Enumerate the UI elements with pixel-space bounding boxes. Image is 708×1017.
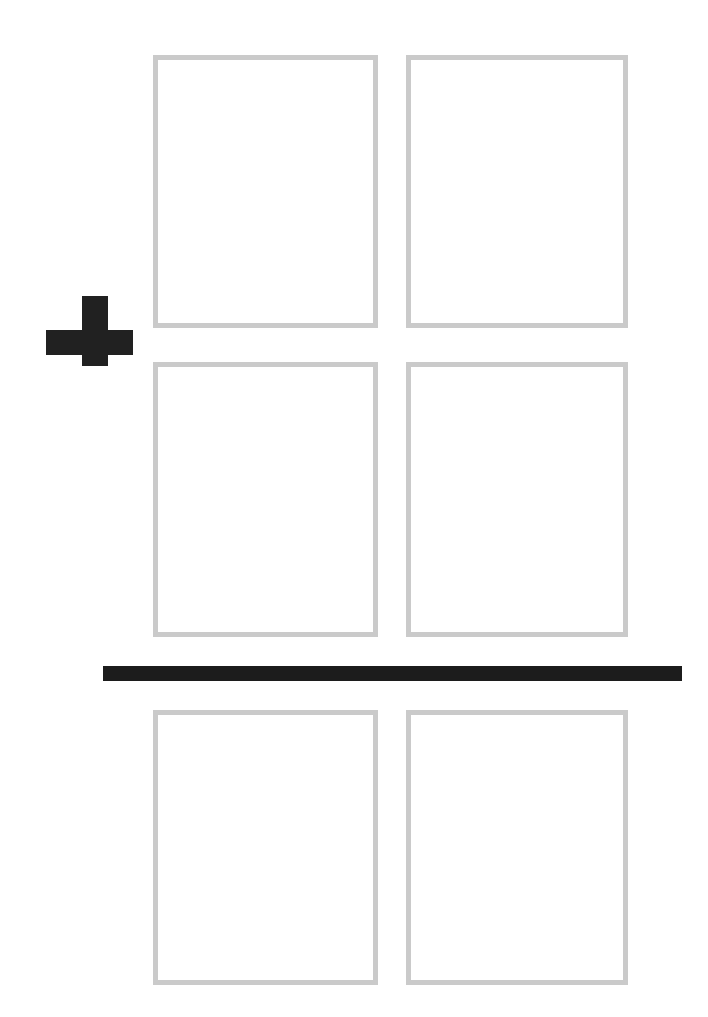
addition-worksheet	[0, 0, 708, 1017]
second-addend-tens[interactable]	[153, 362, 378, 637]
first-addend-ones[interactable]	[406, 55, 628, 328]
sum-tens[interactable]	[153, 710, 378, 985]
first-addend-tens[interactable]	[153, 55, 378, 328]
second-addend-ones[interactable]	[406, 362, 628, 637]
sum-ones[interactable]	[406, 710, 628, 985]
sum-line	[103, 666, 682, 681]
plus-horizontal-stroke	[46, 330, 133, 355]
plus-sign-icon	[46, 296, 133, 366]
